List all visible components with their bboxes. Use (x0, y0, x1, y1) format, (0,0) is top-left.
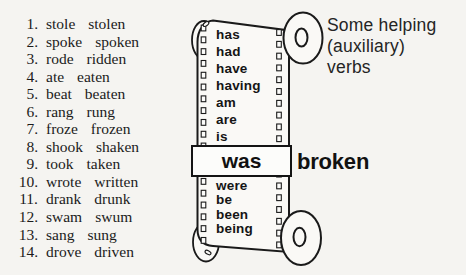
sprocket-hole (277, 195, 282, 201)
caption-line: (auxiliary) (327, 36, 436, 57)
helping-verb: had (216, 43, 261, 60)
sprocket-hole (201, 179, 206, 185)
sprocket-hole (277, 183, 282, 189)
sprocket-hole (201, 190, 206, 196)
helping-verb: have (216, 60, 261, 77)
caption-line: verbs (327, 57, 436, 78)
sprocket-hole (201, 61, 206, 67)
caption-line: Some helping (327, 15, 436, 36)
sprocket-hole (201, 37, 206, 43)
film-reel-top-hole (296, 29, 308, 47)
sprocket-hole (201, 214, 206, 220)
sprocket-hole (201, 238, 206, 244)
sprocket-hole (201, 72, 206, 78)
helping-verbs-upper: has had have having am are is (216, 26, 261, 145)
sprocket-hole (201, 131, 206, 137)
sprocket-hole (277, 30, 282, 36)
highlight-word-box: was (191, 145, 292, 177)
sprocket-hole (277, 218, 282, 224)
sprocket-hole (277, 136, 282, 142)
sprocket-hole (201, 96, 206, 102)
sprocket-hole (201, 202, 206, 208)
sprocket-hole (277, 207, 282, 213)
helping-verb: having (216, 77, 261, 94)
helping-verb: is (216, 128, 261, 145)
helping-verb: been (216, 208, 253, 222)
sprocket-hole (277, 124, 282, 130)
helping-verb: be (216, 193, 253, 207)
helping-verb: were (216, 179, 253, 193)
sprocket-hole (277, 41, 282, 47)
sprocket-hole (277, 77, 282, 83)
film-reel-bottom-hole (294, 228, 306, 246)
textbook-page: 1.stolestolen 2.spokespoken 3.roderidden… (0, 0, 466, 275)
sprocket-hole (201, 84, 206, 90)
helping-verb: am (216, 94, 261, 111)
helping-verb: has (216, 26, 261, 43)
helping-verbs-lower: were be been being (216, 179, 253, 237)
helping-verb: are (216, 111, 261, 128)
sprocket-hole (201, 120, 206, 126)
sprocket-hole (201, 108, 206, 114)
result-word: broken (297, 147, 369, 176)
sprocket-hole (277, 100, 282, 106)
sprocket-hole (277, 65, 282, 71)
sprocket-hole (277, 112, 282, 118)
sprocket-hole (277, 89, 282, 95)
sprocket-hole (201, 226, 206, 232)
sprocket-hole (277, 53, 282, 59)
sprocket-hole (201, 49, 206, 55)
highlight-word: was (222, 149, 262, 173)
helping-verb: being (216, 222, 253, 236)
caption: Some helping (auxiliary) verbs (327, 15, 436, 78)
